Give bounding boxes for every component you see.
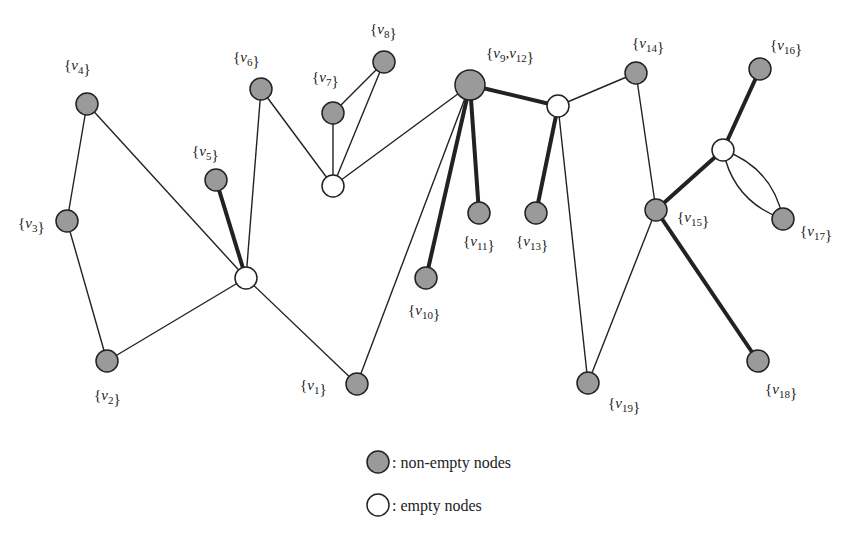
edge-e3-v13 (536, 106, 558, 213)
node-label-v16: {v16} (770, 37, 802, 57)
edge-e4-v17-upper (723, 150, 783, 219)
edge-e3-v19 (558, 106, 588, 383)
node-v16 (749, 58, 771, 80)
legend: : non-empty nodes : empty nodes (367, 451, 511, 516)
node-v15 (645, 199, 667, 221)
edges-layer (67, 62, 783, 384)
node-v11 (468, 202, 490, 224)
node-v2 (96, 350, 118, 372)
edge-v15-v19 (588, 210, 656, 383)
legend-empty-label: : empty nodes (392, 497, 482, 515)
node-label-v5: {v5} (192, 143, 219, 163)
edge-v4-v3 (67, 104, 87, 221)
edge-e3-v14 (558, 73, 636, 106)
edge-e4-v17-lower (723, 150, 783, 219)
node-v6 (250, 78, 272, 100)
node-label-v11: {v11} (463, 233, 495, 253)
edge-e4-v16 (723, 69, 760, 150)
edge-v3-v2 (67, 221, 107, 361)
edge-v14-v15 (636, 73, 656, 210)
node-label-v6: {v6} (233, 49, 260, 69)
node-v3 (56, 210, 78, 232)
node-v4 (76, 93, 98, 115)
node-v5 (205, 169, 227, 191)
node-label-v4: {v4} (64, 57, 91, 77)
node-v1 (346, 373, 368, 395)
node-v14 (625, 62, 647, 84)
node-v17 (772, 208, 794, 230)
node-v7 (322, 102, 344, 124)
empty-node-e3 (547, 95, 569, 117)
graph-diagram: {v1}{v2}{v3}{v4}{v5}{v6}{v7}{v8}{v9,v12}… (0, 0, 854, 536)
node-v18 (747, 350, 769, 372)
legend-nonempty-label: : non-empty nodes (392, 454, 511, 472)
node-label-v9v12: {v9,v12} (486, 45, 534, 65)
edge-v4-e1 (87, 104, 246, 278)
edge-v9v12-v1 (357, 85, 470, 384)
node-label-v15: {v15} (677, 209, 709, 229)
legend-nonempty-icon (367, 451, 389, 473)
node-label-v17: {v17} (800, 223, 832, 243)
edge-v6-e2 (261, 89, 333, 186)
empty-node-e4 (712, 139, 734, 161)
node-label-v13: {v13} (516, 233, 548, 253)
edge-v15-v18 (656, 210, 758, 361)
edge-v15-e4 (656, 150, 723, 210)
node-v8 (373, 51, 395, 73)
legend-empty-icon (367, 494, 389, 516)
node-v13 (525, 202, 547, 224)
node-label-v14: {v14} (632, 35, 664, 55)
node-label-v2: {v2} (94, 387, 121, 407)
edge-e1-v1 (246, 278, 357, 384)
edge-v9v12-v10 (426, 85, 470, 278)
node-label-v19: {v19} (608, 395, 640, 415)
node-label-v7: {v7} (312, 69, 339, 89)
empty-node-e2 (322, 175, 344, 197)
node-label-v1: {v1} (300, 377, 327, 397)
node-label-v18: {v18} (765, 381, 797, 401)
node-label-v3: {v3} (18, 215, 45, 235)
edge-v5-e1 (216, 180, 246, 278)
labels-layer: {v1}{v2}{v3}{v4}{v5}{v6}{v7}{v8}{v9,v12}… (18, 21, 832, 415)
edge-v2-e1 (107, 278, 246, 361)
edge-v6-e1 (246, 89, 261, 278)
node-label-v10: {v10} (408, 302, 440, 322)
node-v9v12 (455, 70, 485, 100)
empty-node-e1 (235, 267, 257, 289)
node-v19 (577, 372, 599, 394)
node-label-v8: {v8} (370, 21, 397, 41)
node-v10 (415, 267, 437, 289)
edge-v9v12-v11 (470, 85, 479, 213)
